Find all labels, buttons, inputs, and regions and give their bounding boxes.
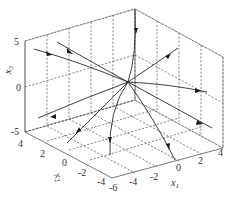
x1-axis-label: x1 bbox=[170, 177, 179, 190]
svg-text:0: 0 bbox=[16, 82, 21, 93]
svg-text:4: 4 bbox=[218, 147, 223, 158]
svg-text:x3: x3 bbox=[2, 66, 15, 75]
axis-edges bbox=[25, 41, 223, 178]
svg-text:4: 4 bbox=[18, 138, 23, 149]
trajectory-8 bbox=[67, 82, 128, 143]
svg-text:5: 5 bbox=[14, 36, 19, 47]
svg-text:x1: x1 bbox=[170, 177, 179, 190]
arrow-icon bbox=[50, 114, 56, 119]
x3-axis-label: x3 bbox=[2, 66, 15, 75]
arrow-icon bbox=[134, 28, 138, 34]
phase-portrait-3d: 5 0 -5 x3 4 2 0 -2 -4 x2 -6 -4 -2 0 2 4 … bbox=[0, 0, 229, 197]
trajectory-3 bbox=[128, 10, 135, 82]
svg-text:0: 0 bbox=[62, 157, 67, 168]
svg-text:-2: -2 bbox=[78, 167, 86, 178]
grid-lines bbox=[25, 9, 223, 173]
z-axis-ticks: 5 0 -5 bbox=[11, 36, 21, 137]
svg-text:2: 2 bbox=[198, 155, 203, 166]
svg-text:-2: -2 bbox=[150, 171, 158, 182]
arrow-icon bbox=[108, 137, 112, 143]
arrowheads bbox=[46, 28, 203, 150]
trajectory-4 bbox=[128, 48, 178, 82]
svg-text:2: 2 bbox=[40, 148, 45, 159]
svg-text:-4: -4 bbox=[97, 176, 105, 187]
svg-text:x2: x2 bbox=[50, 170, 66, 185]
svg-text:-6: -6 bbox=[109, 182, 117, 193]
svg-text:-4: -4 bbox=[129, 176, 137, 187]
trajectory-2 bbox=[57, 42, 128, 82]
svg-text:-5: -5 bbox=[11, 126, 19, 137]
trajectory-7 bbox=[38, 82, 128, 118]
arrow-icon bbox=[46, 51, 52, 56]
svg-text:0: 0 bbox=[176, 162, 181, 173]
x2-axis-label: x2 bbox=[50, 170, 66, 185]
trajectories bbox=[34, 10, 212, 160]
